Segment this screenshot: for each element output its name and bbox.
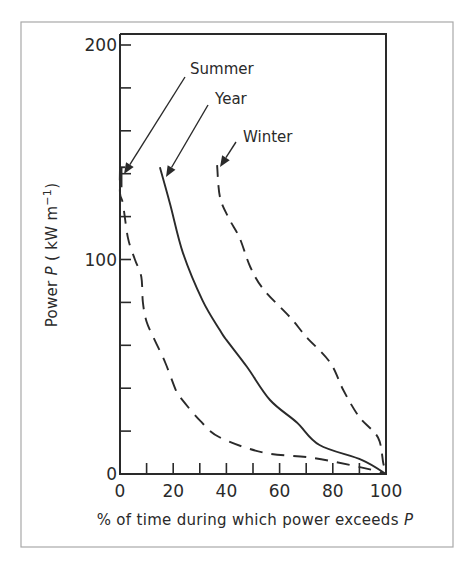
series-label: Summer [190, 60, 254, 78]
arrow-head-icon [124, 162, 134, 174]
y-axis-title: Power P ( kW m−1) [41, 183, 61, 328]
x-tick-label: 0 [115, 481, 126, 501]
annotations: SummerYearWinter [124, 60, 293, 177]
series-label: Year [214, 90, 248, 108]
curve-summer [120, 167, 386, 474]
label-year: Year [166, 90, 248, 177]
label-summer: Summer [124, 60, 254, 174]
arrow-line [130, 77, 185, 165]
label-winter: Winter [220, 128, 293, 167]
arrow-line [172, 105, 208, 167]
arrow-head-icon [220, 155, 230, 167]
y-tick-label: 200 [85, 35, 117, 55]
x-tick-label: 100 [370, 481, 402, 501]
arrow-head-icon [166, 165, 175, 177]
curve-year [160, 167, 386, 474]
x-tick-label: 20 [162, 481, 184, 501]
plot-box [120, 34, 386, 474]
x-tick-label: 60 [269, 481, 291, 501]
x-tick-label: 40 [216, 481, 238, 501]
x-tick-label: 80 [322, 481, 344, 501]
wave-power-exceedance-chart: 0100200020406080100 SummerYearWinter % o… [0, 0, 471, 568]
curves [120, 165, 386, 474]
x-axis-title: % of time during which power exceeds P [97, 511, 414, 529]
y-tick-label: 100 [85, 250, 117, 270]
series-label: Winter [243, 128, 293, 146]
arrow-line [226, 142, 236, 158]
